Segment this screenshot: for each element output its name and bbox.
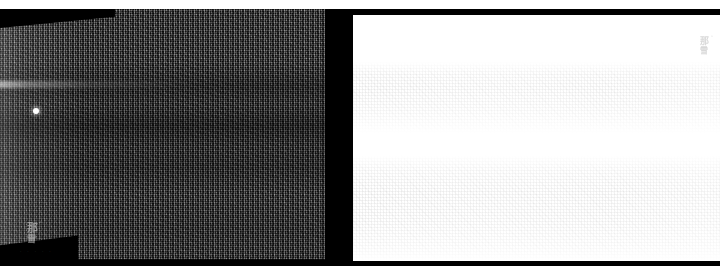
- bottom-letterbox-strip: [0, 266, 720, 274]
- viewer-stage: ^ 那 雪 · · · · · ^ 那 雪: [0, 9, 720, 266]
- right-image-panel[interactable]: ^ 那 雪: [353, 15, 720, 261]
- image-swath: [0, 9, 330, 266]
- horizontal-fade-layer: [353, 15, 720, 261]
- left-image-panel[interactable]: ^ 那 雪 · · · · ·: [0, 9, 330, 266]
- watermark-sub-glyph: 雪: [27, 235, 37, 244]
- right-watermark: ^ 那 雪: [700, 37, 708, 55]
- watermark-sub-glyph: 雪: [700, 47, 708, 55]
- left-caption-text: · · · · ·: [20, 249, 53, 254]
- image-viewer: ^ 那 雪 · · · · · ^ 那 雪: [0, 0, 720, 274]
- bright-point-target: [33, 108, 39, 114]
- watermark-superscript: ^: [40, 221, 42, 226]
- gain-ramp-layer: [0, 9, 330, 266]
- watermark-main-glyph: 那: [27, 223, 37, 234]
- watermark-main-glyph: 那: [700, 37, 708, 46]
- bright-streak: [0, 81, 204, 88]
- left-watermark: ^ 那 雪: [27, 223, 37, 244]
- watermark-superscript: ^: [711, 35, 713, 39]
- top-letterbox-strip: [0, 0, 720, 9]
